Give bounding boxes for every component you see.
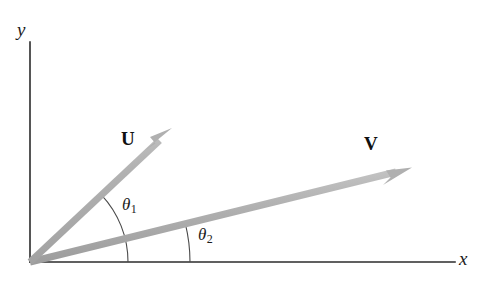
theta2-symbol: θ xyxy=(198,225,206,244)
theta2-subscript: 2 xyxy=(207,232,213,246)
angle-theta1-label: θ1 xyxy=(122,196,137,215)
angle-arc-theta2 xyxy=(185,224,190,262)
vector-diagram-canvas xyxy=(0,0,486,282)
theta1-subscript: 1 xyxy=(131,202,137,216)
angle-theta2-label: θ2 xyxy=(198,226,213,245)
vector-V xyxy=(30,168,412,263)
x-axis-label: x xyxy=(459,249,467,268)
vector-V-shaft xyxy=(30,172,396,262)
y-axis-label: y xyxy=(17,20,25,39)
theta1-symbol: θ xyxy=(122,195,130,214)
vector-U-label: U xyxy=(121,129,135,148)
vector-V-label: V xyxy=(364,134,378,153)
vector-U-arrowhead xyxy=(145,128,173,151)
vector-diagram-figure: y x U V θ1 θ2 xyxy=(0,0,486,282)
